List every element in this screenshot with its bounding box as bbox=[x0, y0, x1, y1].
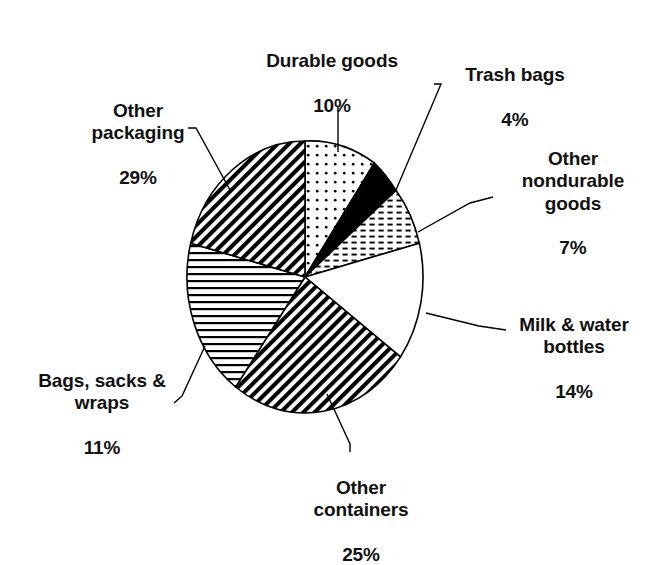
pie-label-other-nondurable-goods: Other nondurable goods 7% bbox=[494, 126, 652, 282]
pie-label-bags-sacks-wraps: Bags, sacks & wraps 11% bbox=[8, 348, 196, 481]
pie-label-other-nondurable-goods-percent: 7% bbox=[494, 237, 652, 259]
pie-label-other-packaging: Other packaging 29% bbox=[52, 78, 224, 211]
pie-label-durable-goods-name: Durable goods bbox=[232, 50, 432, 72]
pie-label-durable-goods-percent: 10% bbox=[232, 95, 432, 117]
pie-label-other-containers: Other containers 25% bbox=[268, 455, 454, 565]
pie-label-other-packaging-name: Other packaging bbox=[52, 100, 224, 144]
pie-label-bags-sacks-wraps-percent: 11% bbox=[8, 437, 196, 459]
pie-label-durable-goods: Durable goods 10% bbox=[232, 28, 432, 139]
pie-label-other-containers-name: Other containers bbox=[268, 477, 454, 521]
pie-label-milk-water-bottles-name: Milk & water bottles bbox=[494, 314, 654, 358]
pie-label-milk-water-bottles-percent: 14% bbox=[494, 381, 654, 403]
pie-label-bags-sacks-wraps-name: Bags, sacks & wraps bbox=[8, 370, 196, 414]
pie-label-trash-bags-name: Trash bags bbox=[432, 64, 598, 86]
pie-label-other-containers-percent: 25% bbox=[268, 544, 454, 565]
pie-label-milk-water-bottles: Milk & water bottles 14% bbox=[494, 292, 654, 425]
pie-label-other-nondurable-goods-name: Other nondurable goods bbox=[494, 148, 652, 215]
leader-line-other-nondurable-goods bbox=[418, 197, 493, 232]
pie-label-other-packaging-percent: 29% bbox=[52, 167, 224, 189]
